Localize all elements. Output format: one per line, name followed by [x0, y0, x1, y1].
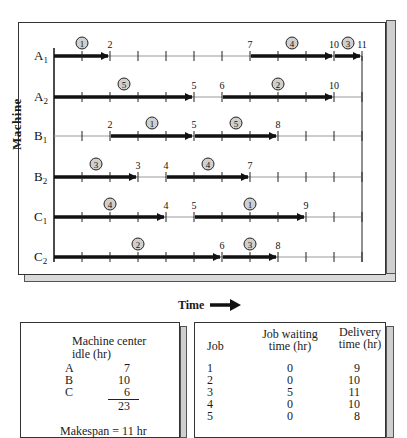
job-number-text: 3: [346, 39, 351, 49]
job-delivery-time: 8: [340, 409, 360, 423]
job-number-text: 2: [136, 240, 141, 250]
time-tick-label: 3: [136, 160, 141, 171]
waiting-header-line2: time (hr): [250, 339, 330, 353]
time-tick-label: 8: [276, 240, 281, 251]
time-tick-label: 5: [192, 80, 197, 91]
job-number-text: 5: [234, 119, 239, 129]
machine-label: C1: [34, 209, 47, 226]
time-tick-label: 4: [164, 200, 169, 211]
job-number-text: 4: [206, 160, 211, 170]
job-number-text: 2: [276, 80, 281, 90]
idle-center-c: C: [65, 385, 73, 399]
time-tick-label: 2: [108, 39, 113, 50]
job-number-text: 1: [80, 39, 85, 49]
time-tick-label: 6: [220, 80, 225, 91]
makespan-text: Makespan = 11 hr: [60, 424, 147, 438]
time-tick-label: 7: [248, 160, 253, 171]
job-number: 5: [207, 409, 221, 423]
machine-axis-label: Machine: [10, 98, 24, 150]
time-tick-label: 2: [108, 119, 113, 130]
time-axis-label: Time: [178, 298, 204, 312]
machine-label: A1: [34, 48, 48, 65]
time-tick-label: 10: [329, 80, 339, 91]
time-tick-label: 10: [329, 39, 339, 50]
delivery-header-line2: time (hr): [330, 337, 390, 351]
job-number-text: 4: [108, 200, 113, 210]
machine-label: B2: [34, 169, 47, 186]
job-number-text: 5: [122, 80, 127, 90]
idle-title-line1: Machine center: [72, 334, 146, 348]
time-tick-label: 5: [192, 119, 197, 130]
job-header: Job: [207, 339, 224, 353]
time-tick-label: 8: [276, 119, 281, 130]
job-number-text: 1: [150, 119, 155, 129]
machine-label: B1: [34, 128, 47, 145]
time-arrow-icon: [210, 298, 242, 312]
time-tick-label: 4: [164, 160, 169, 171]
idle-total: 23: [110, 399, 130, 413]
idle-panel-depth: [180, 326, 187, 438]
job-number-text: 3: [248, 240, 253, 250]
time-tick-label: 7: [248, 39, 253, 50]
idle-hours-c: 6: [110, 385, 130, 399]
time-tick-label: 11: [357, 39, 367, 50]
job-number-text: 1: [248, 200, 253, 210]
machine-label: C2: [34, 249, 47, 266]
time-tick-label: 6: [220, 240, 225, 251]
time-tick-label: 5: [192, 200, 197, 211]
machine-label: A2: [34, 89, 48, 106]
job-number-text: 4: [290, 39, 295, 49]
job-waiting-time: 0: [270, 409, 310, 423]
gantt-chart: 143271011A1525610A215258B134347B241459C1…: [0, 0, 407, 300]
time-tick-label: 9: [304, 200, 309, 211]
idle-title-line2: idle (hr): [72, 347, 111, 361]
job-number-text: 3: [94, 160, 99, 170]
